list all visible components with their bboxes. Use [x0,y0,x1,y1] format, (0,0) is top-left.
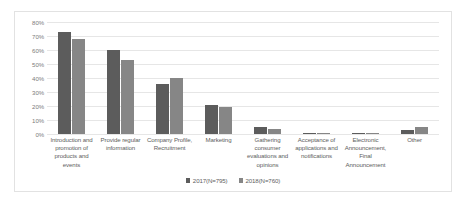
bar-series-2[interactable] [170,78,183,134]
bar-group [292,22,341,134]
bar-series-1[interactable] [401,130,414,134]
y-axis-tick-label: 80% [32,19,44,26]
category-label: Marketing [194,136,243,169]
bar-series-2[interactable] [268,129,281,134]
bars-layer [47,22,439,134]
legend-swatch-icon [239,178,244,183]
y-axis-tick-label: 30% [32,89,44,96]
bar-series-2[interactable] [121,60,134,134]
y-axis-tick-label: 70% [32,33,44,40]
bar-series-2[interactable] [72,39,85,134]
bar-series-2[interactable] [415,127,428,134]
y-axis-tick-label: 40% [32,75,44,82]
bar-series-1[interactable] [156,84,169,134]
legend-label: 2017(N=795) [193,177,228,184]
bar-group [96,22,145,134]
bar-series-1[interactable] [303,133,316,134]
bar-group [47,22,96,134]
y-axis-tick-label: 10% [32,117,44,124]
bar-series-1[interactable] [205,105,218,134]
bar-series-2[interactable] [219,107,232,134]
category-label: Company Profile, Recruitment [145,136,194,169]
plot-area: 80%70%60%50%40%30%20%10%0% [47,22,439,134]
bar-series-1[interactable] [352,133,365,134]
bar-group [390,22,439,134]
y-axis-tick-label: 60% [32,47,44,54]
legend-swatch-icon [186,178,191,183]
bar-group [341,22,390,134]
category-label: Gathering consumer evaluations and opini… [243,136,292,169]
legend-item[interactable]: 2017(N=795) [186,177,228,184]
bar-series-1[interactable] [58,32,71,134]
category-label: Provide regular information [96,136,145,169]
category-label: Electronic Announcement, Final Announcem… [341,136,390,169]
bar-group [194,22,243,134]
bar-series-2[interactable] [366,133,379,134]
category-label: Acceptance of applications and notificat… [292,136,341,169]
chart-container: 80%70%60%50%40%30%20%10%0% Introduction … [14,11,452,192]
category-axis: Introduction and promotion of products a… [47,136,439,169]
bar-group [243,22,292,134]
bar-series-1[interactable] [254,127,267,134]
bar-group [145,22,194,134]
y-axis-tick-label: 0% [35,131,44,138]
bar-series-1[interactable] [107,50,120,134]
bar-series-2[interactable] [317,133,330,134]
y-axis-tick-label: 20% [32,103,44,110]
category-label: Introduction and promotion of products a… [47,136,96,169]
y-axis-tick-label: 50% [32,61,44,68]
legend-label: 2018(N=760) [246,177,281,184]
chart-legend: 2017(N=795)2018(N=760) [15,177,451,184]
category-label: Other [390,136,439,169]
legend-item[interactable]: 2018(N=760) [239,177,281,184]
gridline: 0% [47,134,439,135]
